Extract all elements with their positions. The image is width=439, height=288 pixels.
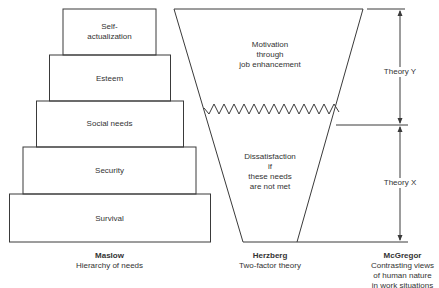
maslow-label-social: Social needs (36, 119, 183, 129)
herzberg-caption: Herzberg Two-factor theory (220, 251, 320, 271)
label-line: through (200, 50, 340, 60)
arrowhead-down-icon (398, 118, 403, 124)
theory-x-label: Theory X (380, 178, 420, 188)
herzberg-dissatisfaction-text: Dissatisfaction if these needs are not m… (215, 152, 325, 192)
arrowhead-up-icon (398, 10, 403, 16)
arrowhead-down-icon (398, 235, 403, 241)
maslow-caption: Maslow Hierarchy of needs (9, 251, 210, 271)
herzberg-zigzag (204, 104, 339, 114)
label-line: Motivation (200, 40, 340, 50)
label-line: these needs (215, 172, 325, 182)
caption-line: Contrasting views (366, 261, 439, 271)
label-line: if (215, 162, 325, 172)
label-line: actualization (63, 32, 156, 42)
label-line: Dissatisfaction (215, 152, 325, 162)
maslow-label-survival: Survival (9, 214, 210, 224)
caption-title: Maslow (9, 251, 210, 261)
caption-title: McGregor (366, 251, 439, 261)
mcgregor-caption: McGregor Contrasting views of human natu… (366, 251, 439, 288)
maslow-label-esteem: Esteem (49, 74, 170, 84)
label-line: are not met (215, 182, 325, 192)
caption-subtitle: Two-factor theory (239, 261, 301, 270)
caption-line: in work situations (366, 281, 439, 288)
caption-line: of human nature (366, 271, 439, 281)
caption-title: Herzberg (220, 251, 320, 261)
herzberg-motivation-text: Motivation through job enhancement (200, 40, 340, 70)
maslow-label-security: Security (23, 166, 196, 176)
theory-y-label: Theory Y (380, 67, 420, 77)
caption-subtitle: Hierarchy of needs (76, 261, 143, 270)
label-line: Self- (63, 22, 156, 32)
maslow-label-self-actualization: Self- actualization (63, 22, 156, 42)
label-line: job enhancement (200, 60, 340, 70)
arrowhead-up-icon (398, 126, 403, 132)
